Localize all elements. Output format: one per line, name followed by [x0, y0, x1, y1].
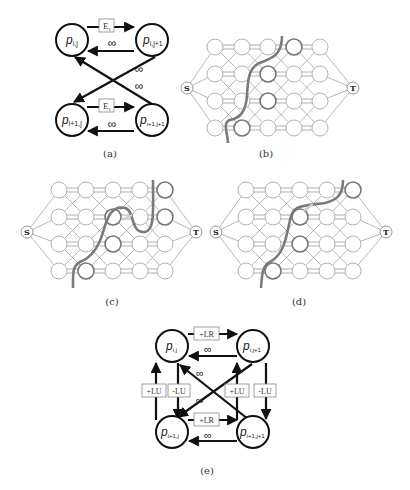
caption-d: (d)	[292, 296, 306, 307]
grid-node	[78, 182, 94, 198]
inf-label: ∞	[135, 79, 144, 93]
svg-text:+LU: +LU	[146, 387, 161, 396]
inf-label: ∞	[204, 429, 212, 441]
grid-node	[78, 236, 94, 252]
grid-node	[207, 120, 223, 136]
grid-node	[265, 182, 281, 198]
grid-node	[286, 120, 302, 136]
grid-node	[51, 182, 67, 198]
grid-node	[260, 39, 276, 55]
grid-node	[292, 236, 308, 252]
grid-node	[157, 209, 173, 225]
grid-node	[238, 209, 254, 225]
grid-node	[286, 93, 302, 109]
grid-node	[260, 120, 276, 136]
grid-node	[238, 182, 254, 198]
grid-node	[234, 120, 250, 136]
caption-c: (c)	[105, 296, 118, 307]
panel-d: ST	[210, 182, 392, 279]
panel-b: ST	[181, 39, 359, 136]
figure-canvas: E1 E1 ∞ ∞ ∞ ∞ pi,j pi,j+1 pi+1,j pi+1,j+…	[0, 0, 410, 490]
grid-node	[207, 93, 223, 109]
grid-node	[157, 263, 173, 279]
svg-text:-LU: -LU	[172, 387, 186, 396]
inf-label: ∞	[108, 117, 117, 131]
svg-text:+LU: +LU	[229, 387, 244, 396]
grid-node	[238, 263, 254, 279]
grid-node	[51, 209, 67, 225]
svg-text:+LR: +LR	[199, 330, 214, 339]
inf-label: ∞	[196, 367, 204, 379]
grid-node	[234, 39, 250, 55]
grid-node	[286, 66, 302, 82]
grid-node	[51, 236, 67, 252]
grid-node	[265, 236, 281, 252]
grid-node	[132, 236, 148, 252]
grid-node	[286, 39, 302, 55]
sink-label: T	[383, 227, 389, 237]
grid-node	[238, 236, 254, 252]
grid-node	[105, 236, 121, 252]
grid-node	[312, 39, 328, 55]
source-label: S	[24, 227, 30, 237]
grid-node	[312, 93, 328, 109]
grid-node	[292, 263, 308, 279]
caption-a: (a)	[103, 148, 117, 159]
caption-b: (b)	[259, 148, 273, 159]
grid-node	[157, 236, 173, 252]
grid-node	[345, 182, 361, 198]
grid-node	[292, 182, 308, 198]
grid-node	[312, 120, 328, 136]
grid-node	[78, 263, 94, 279]
panel-e: +LR +LR +LU -LU +LU -LU ∞ ∞ ∞ ∞ pi,j pi,…	[142, 327, 276, 448]
grid-node	[260, 93, 276, 109]
panel-c: ST	[21, 182, 202, 279]
inf-label: ∞	[204, 343, 212, 355]
grid-node	[132, 263, 148, 279]
grid-node	[78, 209, 94, 225]
caption-e: (e)	[200, 465, 214, 476]
grid-node	[132, 182, 148, 198]
source-label: S	[184, 83, 190, 93]
panel-a: E1 E1 ∞ ∞ ∞ ∞ pi,j pi,j+1 pi+1,j pi+1,j+…	[56, 19, 168, 136]
grid-node	[312, 66, 328, 82]
inf-label: ∞	[135, 62, 144, 76]
grid-node	[345, 236, 361, 252]
grid-node	[319, 209, 335, 225]
sink-label: T	[350, 83, 356, 93]
sink-label: T	[193, 227, 199, 237]
svg-text:+LR: +LR	[199, 416, 214, 425]
grid-node	[319, 236, 335, 252]
grid-node	[345, 263, 361, 279]
grid-node	[105, 182, 121, 198]
grid-node	[260, 66, 276, 82]
grid-node	[319, 263, 335, 279]
grid-node	[157, 182, 173, 198]
source-label: S	[213, 227, 219, 237]
inf-label: ∞	[108, 36, 117, 50]
node-e-pij1	[237, 330, 269, 362]
grid-node	[207, 66, 223, 82]
grid-node	[207, 39, 223, 55]
svg-text:-LU: -LU	[258, 387, 272, 396]
grid-node	[319, 182, 335, 198]
inf-label: ∞	[196, 394, 204, 406]
grid-node	[51, 263, 67, 279]
grid-node	[105, 263, 121, 279]
grid-node	[345, 209, 361, 225]
grid-node	[265, 209, 281, 225]
